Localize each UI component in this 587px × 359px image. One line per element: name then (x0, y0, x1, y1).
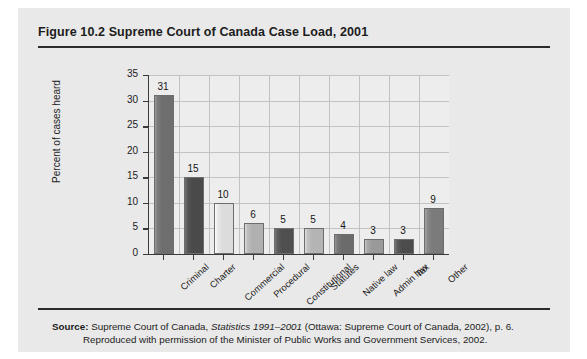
y-tick-label: 35 (112, 68, 138, 79)
x-tick-mark (163, 255, 164, 260)
x-tick-mark (313, 255, 314, 260)
source-line-2: Reproduced with permission of the Minist… (52, 333, 560, 346)
figure-root: Figure 10.2 Supreme Court of Canada Case… (0, 0, 587, 359)
y-tick-label: 30 (112, 94, 138, 105)
source-label: Source: (52, 321, 88, 332)
y-tick-label: 25 (112, 119, 138, 130)
y-tick-label: 10 (112, 196, 138, 207)
y-tick-label: 0 (112, 247, 138, 258)
source-italic-title: Statistics 1991–2001 (211, 321, 302, 332)
x-category-label-criminal: Criminal (179, 262, 211, 292)
bar-criminal (154, 95, 174, 254)
bar-admin-law (364, 239, 384, 254)
y-tick-label: 15 (112, 170, 138, 181)
x-tick-mark (223, 255, 224, 260)
bar-procedural (244, 223, 264, 254)
y-axis-label: Percent of cases heard (51, 57, 62, 207)
bar-value-tax: 3 (383, 225, 423, 236)
source-divider (38, 308, 550, 310)
x-tick-mark (373, 255, 374, 260)
gridline-vertical (299, 75, 300, 254)
y-tick-mark (143, 254, 148, 255)
x-tick-mark (403, 255, 404, 260)
bar-value-charter: 15 (173, 163, 213, 174)
bar-charter (184, 177, 204, 254)
y-tick-label: 5 (112, 221, 138, 232)
bar-value-other: 9 (413, 194, 453, 205)
x-category-label-charter: Charter (208, 262, 238, 290)
bar-native-law (334, 234, 354, 254)
bar-chart: Percent of cases heard 0510152025303531C… (18, 48, 570, 310)
source-text-1: Supreme Court of Canada, (88, 321, 211, 332)
gridline-vertical (269, 75, 270, 254)
bar-value-criminal: 31 (143, 81, 183, 92)
figure-title: Figure 10.2 Supreme Court of Canada Case… (38, 25, 368, 39)
x-tick-mark (283, 255, 284, 260)
y-tick-mark (143, 177, 148, 178)
y-tick-mark (143, 101, 148, 102)
y-tick-label: 20 (112, 145, 138, 156)
bar-statutes (304, 228, 324, 254)
x-tick-mark (343, 255, 344, 260)
source-text-2: (Ottawa: Supreme Court of Canada, 2002),… (302, 321, 514, 332)
bar-tax (394, 239, 414, 254)
figure-panel: Figure 10.2 Supreme Court of Canada Case… (18, 8, 570, 352)
x-tick-mark (193, 255, 194, 260)
y-tick-mark (143, 126, 148, 127)
y-tick-mark (143, 75, 148, 76)
bar-commercial (214, 203, 234, 254)
gridline-vertical (239, 75, 240, 254)
y-tick-mark (143, 203, 148, 204)
y-tick-mark (143, 228, 148, 229)
bar-value-commercial: 10 (203, 189, 243, 200)
bar-other (424, 208, 444, 254)
x-tick-mark (433, 255, 434, 260)
x-tick-mark (253, 255, 254, 260)
y-tick-mark (143, 152, 148, 153)
x-category-label-other: Other (446, 262, 470, 285)
source-note: Source: Supreme Court of Canada, Statist… (52, 320, 560, 346)
bar-constitutional (274, 228, 294, 254)
